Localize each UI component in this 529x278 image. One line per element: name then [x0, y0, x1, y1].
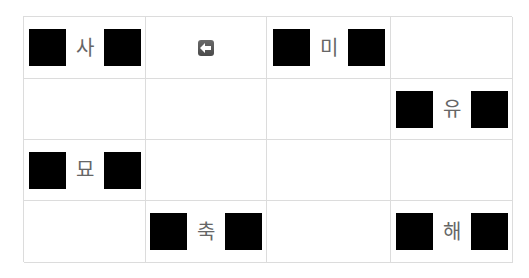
right-block: [225, 213, 262, 250]
zodiac-grid: 사 미 유 묘: [23, 16, 512, 262]
right-block: [348, 29, 385, 66]
cell-r1c3[interactable]: 미: [267, 17, 391, 79]
cell-r2c1[interactable]: [24, 79, 146, 140]
tile-label: 유: [443, 99, 461, 119]
left-block: [273, 29, 310, 66]
cell-r4c2[interactable]: 축: [146, 201, 267, 263]
cell-r2c2[interactable]: [146, 79, 267, 140]
cell-r3c4[interactable]: [391, 140, 513, 201]
tile-label: 축: [197, 222, 215, 242]
right-block: [471, 213, 508, 250]
right-block: [104, 152, 141, 189]
tile-label: 사: [76, 38, 94, 58]
cell-r3c1[interactable]: 묘: [24, 140, 146, 201]
tile-mi[interactable]: 미: [273, 29, 385, 66]
cell-r1c2[interactable]: [146, 17, 267, 79]
cell-r1c4[interactable]: [391, 17, 513, 79]
tile-sa[interactable]: 사: [29, 29, 141, 66]
cell-r2c4[interactable]: 유: [391, 79, 513, 140]
tile-label: 묘: [76, 160, 94, 180]
left-block: [29, 29, 66, 66]
cell-r2c3[interactable]: [267, 79, 391, 140]
right-block: [104, 29, 141, 66]
cell-r4c1[interactable]: [24, 201, 146, 263]
tile-myo[interactable]: 묘: [29, 152, 141, 189]
tile-yu[interactable]: 유: [396, 91, 508, 128]
tile-label: 미: [320, 38, 338, 58]
cell-r4c3[interactable]: [267, 201, 391, 263]
back-arrow-icon[interactable]: [198, 40, 214, 56]
left-block: [396, 213, 433, 250]
cell-r1c1[interactable]: 사: [24, 17, 146, 79]
tile-label: 해: [443, 222, 461, 242]
left-block: [29, 152, 66, 189]
left-block: [396, 91, 433, 128]
tile-chuk[interactable]: 축: [150, 213, 262, 250]
cell-r3c2[interactable]: [146, 140, 267, 201]
cell-r4c4[interactable]: 해: [391, 201, 513, 263]
cell-r3c3[interactable]: [267, 140, 391, 201]
tile-hae[interactable]: 해: [396, 213, 508, 250]
left-block: [150, 213, 187, 250]
right-block: [471, 91, 508, 128]
